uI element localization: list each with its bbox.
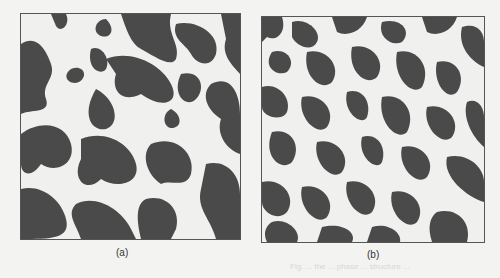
panel-b-image bbox=[261, 16, 485, 243]
panel-a-image bbox=[20, 13, 241, 240]
microstructure-a bbox=[21, 14, 240, 239]
bleed-through-text: Fig. ... the ... phase ... structure ... bbox=[290, 262, 500, 276]
panel-b-label: (b) bbox=[367, 249, 379, 260]
microstructure-b bbox=[262, 17, 484, 242]
panel-a-label: (a) bbox=[116, 247, 128, 258]
